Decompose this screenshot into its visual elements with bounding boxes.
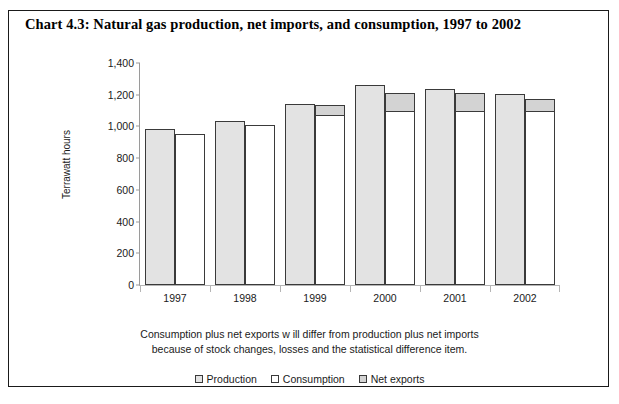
- bar-group: 2000: [350, 63, 420, 285]
- x-axis-tick-label: 2000: [350, 292, 420, 304]
- bar-production: [355, 85, 385, 285]
- plot-area: 02004006008001,0001,2001,400 19971998199…: [140, 63, 560, 285]
- bar-consumption: [385, 111, 415, 285]
- chart-figure: Chart 4.3: Natural gas production, net i…: [8, 10, 609, 387]
- bar-group: 1997: [140, 63, 210, 285]
- bar-group: 2002: [490, 63, 560, 285]
- footnote-line-1: Consumption plus net exports w ill diffe…: [9, 327, 610, 342]
- bar-consumption: [245, 125, 275, 285]
- y-axis-tick-label: 1,000: [108, 120, 134, 132]
- bar-segment-net-exports: [385, 93, 415, 112]
- bar-consumption: [315, 115, 345, 285]
- x-axis-tick-mark: [140, 285, 141, 292]
- legend-item-label: Net exports: [371, 373, 425, 385]
- y-axis-title: Terrawatt hours: [61, 105, 72, 225]
- x-axis-tick-mark: [210, 285, 211, 292]
- legend-swatch-icon: [271, 375, 279, 383]
- plot-area-wrapper: Terrawatt hours 02004006008001,0001,2001…: [9, 51, 610, 311]
- bar-consumption: [525, 111, 555, 285]
- x-axis-tick-mark: [420, 285, 421, 292]
- x-axis-tick-mark: [280, 285, 281, 292]
- y-axis-tick-label: 1,200: [108, 89, 134, 101]
- x-axis-tick-label: 1999: [280, 292, 350, 304]
- y-axis-tick-label: 400: [116, 216, 134, 228]
- bar-segment-net-exports: [315, 105, 345, 115]
- x-axis-tick-label: 2002: [490, 292, 560, 304]
- y-axis-tick-label: 1,400: [108, 57, 134, 69]
- bar-production: [285, 104, 315, 285]
- page-title: Chart 4.3: Natural gas production, net i…: [25, 16, 521, 33]
- bar-segment-net-exports: [455, 93, 485, 111]
- x-axis-tick-mark: [350, 285, 351, 292]
- x-axis-tick-label: 2001: [420, 292, 490, 304]
- chart-footnote: Consumption plus net exports w ill diffe…: [9, 327, 610, 357]
- legend-item-label: Consumption: [283, 373, 345, 385]
- chart-legend: ProductionConsumptionNet exports: [9, 373, 610, 385]
- legend-swatch-icon: [195, 375, 203, 383]
- bar-production: [495, 94, 525, 285]
- bar-production: [145, 129, 175, 285]
- x-axis-tick-mark: [490, 285, 491, 292]
- legend-swatch-icon: [359, 375, 367, 383]
- y-axis-tick-label: 600: [116, 184, 134, 196]
- bar-segment-net-exports: [525, 99, 555, 112]
- x-axis-tick-label: 1997: [140, 292, 210, 304]
- bar-consumption: [175, 134, 205, 285]
- y-axis-tick-label: 0: [128, 279, 134, 291]
- bar-group: 2001: [420, 63, 490, 285]
- legend-item: Consumption: [271, 373, 345, 385]
- x-axis-tick-label: 1998: [210, 292, 280, 304]
- bar-group: 1998: [210, 63, 280, 285]
- bar-production: [425, 89, 455, 285]
- x-axis-tick-mark: [559, 285, 560, 292]
- y-axis-tick-label: 200: [116, 247, 134, 259]
- y-axis-tick-label: 800: [116, 152, 134, 164]
- bar-group: 1999: [280, 63, 350, 285]
- legend-item: Net exports: [359, 373, 425, 385]
- legend-item: Production: [195, 373, 257, 385]
- bar-production: [215, 121, 245, 285]
- bar-consumption: [455, 111, 485, 285]
- legend-item-label: Production: [207, 373, 257, 385]
- footnote-line-2: because of stock changes, losses and the…: [9, 342, 610, 357]
